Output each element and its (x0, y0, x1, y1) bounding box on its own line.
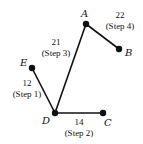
node-c (100, 110, 106, 116)
spanning-tree-diagram: 12(Step 1)14(Step 2)21(Step 3)22(Step 4)… (0, 0, 143, 144)
edge-weight-label: 12 (23, 78, 32, 88)
node-b (116, 46, 122, 52)
edge-labels: 12(Step 1)14(Step 2)21(Step 3)22(Step 4) (13, 10, 135, 138)
node-label-c: C (104, 117, 112, 128)
node-label-a: A (80, 8, 88, 19)
edge-step-label: (Step 4) (106, 21, 135, 31)
edge-step-label: (Step 3) (42, 48, 71, 58)
edge-weight-label: 21 (52, 37, 61, 47)
node-e (29, 65, 35, 71)
edge-weight-label: 14 (75, 117, 85, 127)
edge-step-label: (Step 1) (13, 89, 42, 99)
node-label-b: B (124, 47, 132, 58)
node-label-d: D (41, 115, 50, 126)
edge-weight-label: 22 (116, 10, 125, 20)
node-label-e: E (19, 57, 28, 68)
node-a (83, 21, 89, 27)
edges (32, 24, 119, 113)
node-d (52, 110, 58, 116)
edge-step-label: (Step 2) (65, 128, 94, 138)
